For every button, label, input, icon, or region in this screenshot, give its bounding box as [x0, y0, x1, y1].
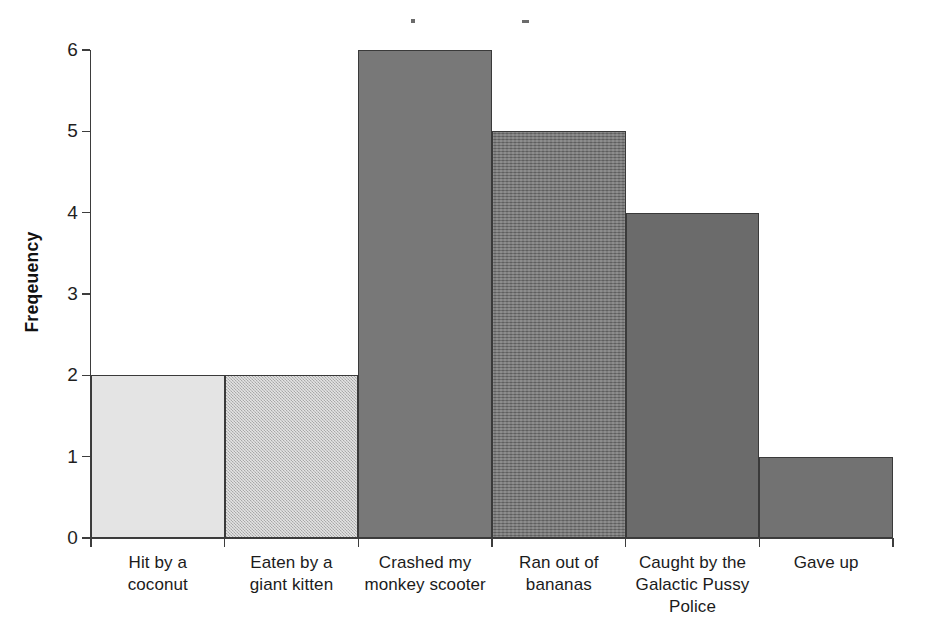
bar-chart-figure: Freqeuency 0123456 Hit by acoconutEaten …	[0, 0, 940, 640]
category-label-line: Eaten by a	[225, 552, 359, 574]
y-axis-tick	[82, 456, 90, 457]
x-axis-tick	[358, 538, 359, 547]
category-label-line: coconut	[91, 574, 225, 596]
y-axis-tick-label: 4	[18, 203, 78, 222]
x-axis-category-label: Caught by theGalactic PussyPolice	[626, 552, 760, 618]
category-label-line: bananas	[492, 574, 626, 596]
category-label-line: Galactic Pussy	[626, 574, 760, 596]
y-axis-tick	[82, 293, 90, 294]
bar-4	[492, 131, 626, 538]
category-label-line: Police	[626, 596, 760, 618]
bar-6	[759, 457, 893, 538]
y-axis-tick-label: 2	[18, 365, 78, 384]
y-axis-tick	[82, 537, 90, 538]
y-axis-tick	[82, 212, 90, 213]
x-axis-tick	[90, 538, 91, 547]
category-label-line: Hit by a	[91, 552, 225, 574]
x-axis-line	[83, 538, 893, 539]
y-axis-tick-label: 5	[18, 121, 78, 140]
category-label-line: giant kitten	[225, 574, 359, 596]
y-axis-tick	[82, 131, 90, 132]
x-axis-category-label: Crashed mymonkey scooter	[358, 552, 492, 596]
bar-1	[91, 375, 225, 538]
x-axis-category-label: Eaten by agiant kitten	[225, 552, 359, 596]
scan-speck-icon	[522, 20, 529, 23]
x-axis-tick	[491, 538, 492, 547]
y-axis-tick	[82, 375, 90, 376]
scan-speck-icon	[411, 19, 415, 23]
y-axis-tick-label: 3	[18, 284, 78, 303]
y-axis-tick-label: 0	[18, 528, 78, 547]
x-axis-category-label: Gave up	[759, 552, 893, 574]
category-label-line: Ran out of	[492, 552, 626, 574]
y-axis-tick-label: 6	[18, 40, 78, 59]
y-axis-tick	[82, 49, 90, 50]
bar-5	[626, 213, 760, 538]
category-label-line: monkey scooter	[358, 574, 492, 596]
x-axis-category-label: Hit by acoconut	[91, 552, 225, 596]
x-axis-category-label: Ran out ofbananas	[492, 552, 626, 596]
x-axis-tick	[892, 538, 893, 547]
category-label-line: Crashed my	[358, 552, 492, 574]
bar-3	[358, 50, 492, 538]
y-axis-tick-label: 1	[18, 447, 78, 466]
x-axis-tick	[759, 538, 760, 547]
category-label-line: Gave up	[759, 552, 893, 574]
x-axis-tick	[224, 538, 225, 547]
plot-area	[91, 50, 893, 538]
x-axis-tick	[625, 538, 626, 547]
y-axis-title: Freqeuency	[22, 231, 43, 332]
category-label-line: Caught by the	[626, 552, 760, 574]
bar-2	[225, 375, 359, 538]
